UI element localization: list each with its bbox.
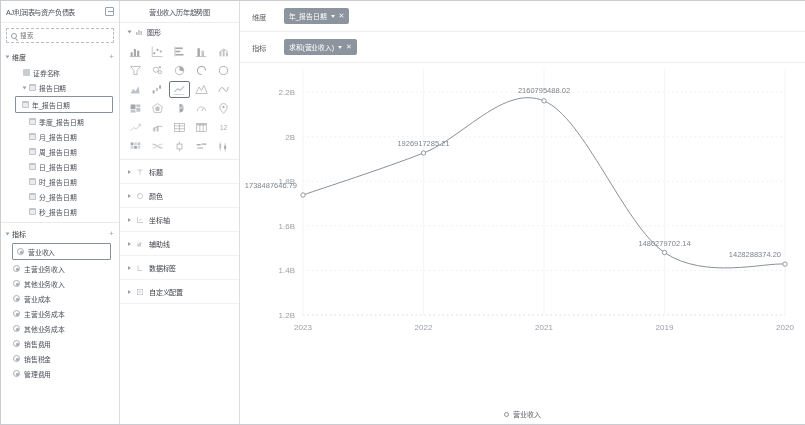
axis-icon — [136, 216, 144, 224]
accordion-item-axis[interactable]: 坐标轴 — [120, 208, 239, 232]
dimension-item-second-report-date[interactable]: 秒_报告日期 — [1, 204, 119, 219]
metric-item-other-business-revenue[interactable]: 其他业务收入 — [1, 276, 119, 291]
y-axis-tick-label: 2B — [285, 133, 295, 142]
data-point-label: 2160795488.02 — [518, 86, 570, 95]
rose-chart-icon[interactable] — [169, 100, 189, 117]
line-chart[interactable]: 2.2B2B1.8B1.6B1.4B1.2B202320222021201920… — [240, 63, 805, 424]
dimension-shelf-label: 维度 — [252, 11, 274, 22]
add-dimension-button[interactable]: + — [109, 53, 114, 61]
metric-section-header[interactable]: 指标 + — [1, 226, 119, 242]
accordion-item-color[interactable]: 颜色 — [120, 184, 239, 208]
table-chart-icon[interactable] — [169, 119, 189, 136]
metric-item-other-business-cost[interactable]: 其他业务成本 — [1, 321, 119, 336]
accordion-item-title[interactable]: 标题 — [120, 160, 239, 184]
line-chart-icon[interactable] — [169, 81, 189, 98]
dimension-item-day-report-date[interactable]: 日_报告日期 — [1, 159, 119, 174]
funnel-chart-icon[interactable] — [125, 62, 145, 79]
scatter-chart-icon[interactable] — [147, 43, 167, 60]
switch-dataset-icon[interactable] — [105, 7, 114, 16]
data-point[interactable] — [301, 193, 305, 197]
curve-chart-icon[interactable] — [214, 81, 234, 98]
measure-field-icon — [13, 355, 20, 362]
map-point-icon[interactable] — [214, 100, 234, 117]
metric-item-operating-cost[interactable]: 营业成本 — [1, 291, 119, 306]
metric-item-label: 其他业务收入 — [24, 279, 65, 289]
ring-chart-icon[interactable] — [214, 62, 234, 79]
add-metric-button[interactable]: + — [109, 230, 114, 238]
treemap-chart-icon[interactable] — [125, 100, 145, 117]
trend-chart-icon[interactable] — [125, 119, 145, 136]
pivot-table-icon[interactable] — [192, 119, 212, 136]
title-icon — [136, 168, 144, 176]
date-field-icon — [29, 193, 36, 200]
metric-item-main-business-revenue[interactable]: 主营业务收入 — [1, 261, 119, 276]
date-field-icon — [29, 178, 36, 185]
close-icon[interactable]: ✕ — [339, 12, 345, 20]
chevron-right-icon — [128, 170, 131, 174]
search-input[interactable] — [20, 32, 109, 39]
data-point-label: 1480279702.14 — [638, 239, 690, 248]
chevron-down-icon[interactable] — [331, 15, 335, 18]
mountain-chart-icon[interactable] — [192, 81, 212, 98]
accordion-item-data-label[interactable]: 数据标签 — [120, 256, 239, 280]
svg-text:12: 12 — [220, 124, 228, 131]
radar-chart-icon[interactable] — [147, 100, 167, 117]
close-icon[interactable]: ✕ — [346, 43, 352, 51]
chevron-down-icon[interactable] — [338, 46, 342, 49]
style-panel: 营业收入历年趋势图 图形 — [120, 1, 240, 424]
search-box[interactable] — [6, 28, 114, 43]
metric-item-label: 主营业务成本 — [24, 309, 65, 319]
measure-field-icon — [13, 280, 20, 287]
dimension-item-label: 季度_报告日期 — [39, 117, 83, 127]
column-line-chart-icon[interactable] — [214, 43, 234, 60]
dual-axis-chart-icon[interactable] — [147, 119, 167, 136]
metric-item-operating-revenue[interactable]: 营业收入 — [12, 243, 111, 260]
bar-chart-icon[interactable] — [125, 43, 145, 60]
dimension-item-report-date[interactable]: 报告日期 — [1, 80, 119, 95]
metric-item-admin-expense[interactable]: 管理费用 — [1, 366, 119, 381]
chart-type-icon — [135, 28, 143, 36]
heatmap-chart-icon[interactable] — [125, 138, 145, 155]
candlestick-chart-icon[interactable] — [214, 138, 234, 155]
accordion-item-reference-line[interactable]: 辅助线 — [120, 232, 239, 256]
y-axis-tick-label: 1.2B — [279, 311, 295, 320]
stacked-bar-chart-icon[interactable] — [192, 43, 212, 60]
dimension-item-label: 周_报告日期 — [39, 147, 77, 157]
data-point[interactable] — [783, 262, 787, 266]
accordion-item-custom-config[interactable]: 自定义配置 — [120, 280, 239, 304]
chart-svg[interactable]: 2.2B2B1.8B1.6B1.4B1.2B202320222021201920… — [240, 63, 805, 408]
dimension-item-security-name[interactable]: 证券名称 — [1, 65, 119, 80]
data-point[interactable] — [662, 250, 666, 254]
metric-pill-sum-operating-revenue[interactable]: 求和(营业收入) ✕ — [284, 39, 357, 55]
metric-item-main-business-cost[interactable]: 主营业务成本 — [1, 306, 119, 321]
measure-field-icon — [13, 370, 20, 377]
data-point[interactable] — [542, 99, 546, 103]
gauge-chart-icon[interactable] — [192, 100, 212, 117]
dimension-item-quarter-report-date[interactable]: 季度_报告日期 — [1, 114, 119, 129]
pill-label: 年_报告日期 — [289, 11, 327, 21]
chart-type-section-header[interactable]: 图形 — [120, 23, 239, 41]
pie-chart-icon[interactable] — [169, 62, 189, 79]
box-chart-icon[interactable] — [169, 138, 189, 155]
metric-item-selling-expense[interactable]: 销售费用 — [1, 336, 119, 351]
dimension-item-week-report-date[interactable]: 周_报告日期 — [1, 144, 119, 159]
measure-field-icon — [13, 325, 20, 332]
dimension-section-header[interactable]: 维度 + — [1, 49, 119, 65]
dimension-item-month-report-date[interactable]: 月_报告日期 — [1, 129, 119, 144]
dimension-item-minute-report-date[interactable]: 分_报告日期 — [1, 189, 119, 204]
number-card-icon[interactable]: 12 — [214, 119, 234, 136]
accordion-item-label: 颜色 — [149, 191, 163, 201]
donut-progress-icon[interactable] — [192, 62, 212, 79]
dimension-item-label: 秒_报告日期 — [39, 207, 77, 217]
data-point[interactable] — [421, 151, 425, 155]
waterfall-chart-icon[interactable] — [147, 81, 167, 98]
bubble-chart-icon[interactable] — [147, 62, 167, 79]
word-cloud-icon[interactable] — [192, 138, 212, 155]
metric-item-sales-tax[interactable]: 销售税金 — [1, 351, 119, 366]
dimension-pill-year-report-date[interactable]: 年_报告日期 ✕ — [284, 8, 349, 24]
dimension-item-hour-report-date[interactable]: 时_报告日期 — [1, 174, 119, 189]
dimension-item-year-report-date[interactable]: 年_报告日期 — [15, 96, 113, 113]
horizontal-bar-chart-icon[interactable] — [169, 43, 189, 60]
sankey-chart-icon[interactable] — [147, 138, 167, 155]
area-chart-icon[interactable] — [125, 81, 145, 98]
